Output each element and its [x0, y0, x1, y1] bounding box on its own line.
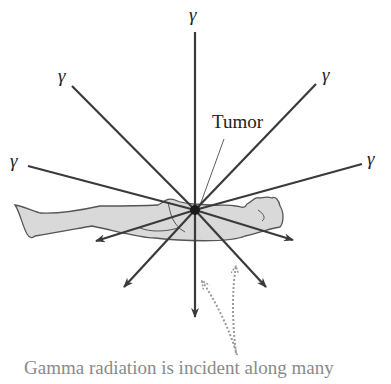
- gamma-beams: [28, 32, 362, 317]
- gamma-label-right: γ: [367, 148, 375, 170]
- gamma-label-top: γ: [189, 4, 197, 26]
- gamma-label-upper-left: γ: [58, 65, 66, 87]
- gamma-knife-diagram: γ γ γ γ γ Tumor Gamma radiation is incid…: [0, 0, 391, 384]
- tumor-leader-line: [199, 139, 224, 208]
- diagram-graphics: [0, 0, 391, 384]
- tumor-marker: [190, 205, 200, 215]
- gamma-label-left: γ: [10, 150, 18, 172]
- patient-body: [15, 197, 283, 241]
- dotted-arrows: [202, 266, 237, 355]
- gamma-label-upper-right: γ: [322, 64, 330, 86]
- caption-text: Gamma radiation is incident along many: [24, 357, 334, 379]
- tumor-label: Tumor: [212, 111, 263, 133]
